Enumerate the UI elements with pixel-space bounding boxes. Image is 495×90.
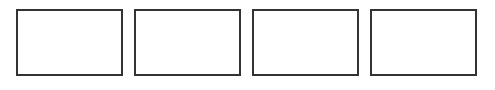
empty-panel-3 <box>252 9 359 76</box>
empty-panel-4 <box>370 9 477 76</box>
empty-panel-1 <box>16 9 123 76</box>
empty-panel-2 <box>134 9 241 76</box>
